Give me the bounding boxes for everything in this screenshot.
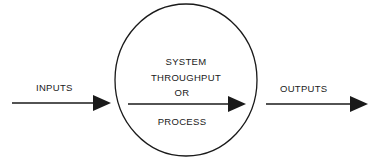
inputs-label: INPUTS (36, 82, 73, 93)
process-label-line3: OR (175, 87, 190, 98)
process-label-line2: THROUGHPUT (151, 72, 221, 83)
outputs-label: OUTPUTS (280, 83, 328, 94)
process-label-line1: SYSTEM (166, 56, 207, 67)
input-arrow (12, 95, 111, 111)
output-arrow (266, 96, 368, 112)
throughput-arrow (128, 96, 246, 112)
process-label-line4: PROCESS (158, 116, 207, 127)
system-diagram: INPUTS SYSTEM THROUGHPUT OR PROCESS OUTP… (0, 0, 372, 163)
